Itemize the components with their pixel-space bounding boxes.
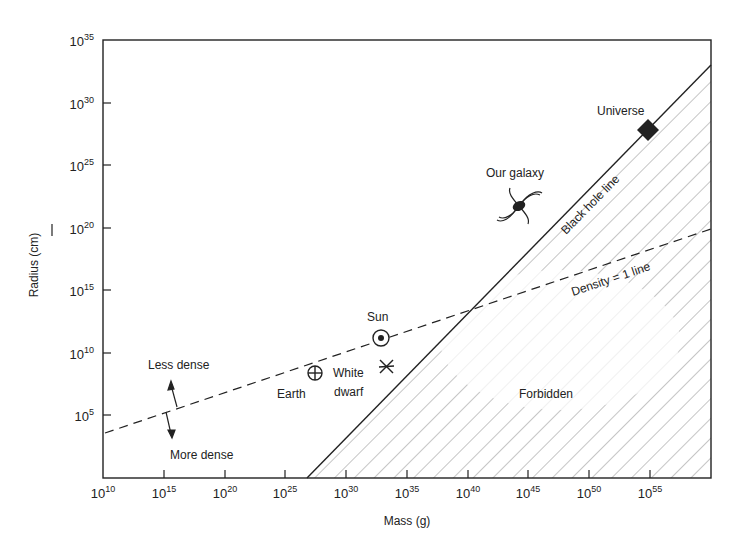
forbidden-label: Forbidden (519, 387, 573, 401)
svg-text:1030: 1030 (334, 484, 358, 501)
svg-text:1025: 1025 (70, 157, 94, 174)
white-dwarf-icon (379, 360, 394, 373)
svg-text:1040: 1040 (456, 484, 480, 501)
sun-icon (373, 330, 389, 346)
svg-text:1020: 1020 (213, 484, 237, 501)
galaxy-icon (497, 188, 542, 224)
svg-text:1025: 1025 (273, 484, 297, 501)
svg-text:1010: 1010 (70, 345, 94, 362)
svg-text:1020: 1020 (70, 220, 94, 237)
x-axis-tick-labels: 1010 1015 1020 1025 1030 1035 1040 1045 … (91, 484, 662, 501)
white-dwarf-label-line2: dwarf (334, 385, 364, 399)
sun-label: Sun (367, 310, 388, 324)
svg-text:1030: 1030 (70, 95, 94, 112)
svg-text:1010: 1010 (91, 484, 115, 501)
earth-label: Earth (277, 387, 306, 401)
y-axis-tick-labels: 105 1010 1015 1020 1025 1030 1035 (70, 32, 94, 424)
arrow-down-icon (168, 430, 175, 438)
svg-text:1015: 1015 (70, 282, 94, 299)
svg-text:1035: 1035 (70, 32, 94, 49)
mass-radius-chart: 1010 1015 1020 1025 1030 1035 1040 1045 … (0, 0, 742, 559)
svg-text:1015: 1015 (152, 484, 176, 501)
earth-icon (308, 366, 322, 380)
galaxy-label: Our galaxy (486, 166, 544, 180)
y-axis-title: Radius (cm) (27, 233, 41, 298)
universe-label: Universe (597, 104, 645, 118)
y-axis-ticks (103, 103, 111, 415)
svg-text:105: 105 (75, 407, 94, 424)
white-dwarf-label-line1: White (333, 366, 364, 380)
svg-text:1045: 1045 (516, 484, 540, 501)
svg-text:1055: 1055 (638, 484, 662, 501)
arrow-up-icon (168, 381, 174, 390)
svg-text:1035: 1035 (395, 484, 419, 501)
density-arrows (166, 381, 177, 438)
x-axis-title: Mass (g) (384, 514, 431, 528)
more-dense-label: More dense (170, 448, 234, 462)
less-dense-label: Less dense (148, 358, 210, 372)
svg-text:1050: 1050 (577, 484, 601, 501)
